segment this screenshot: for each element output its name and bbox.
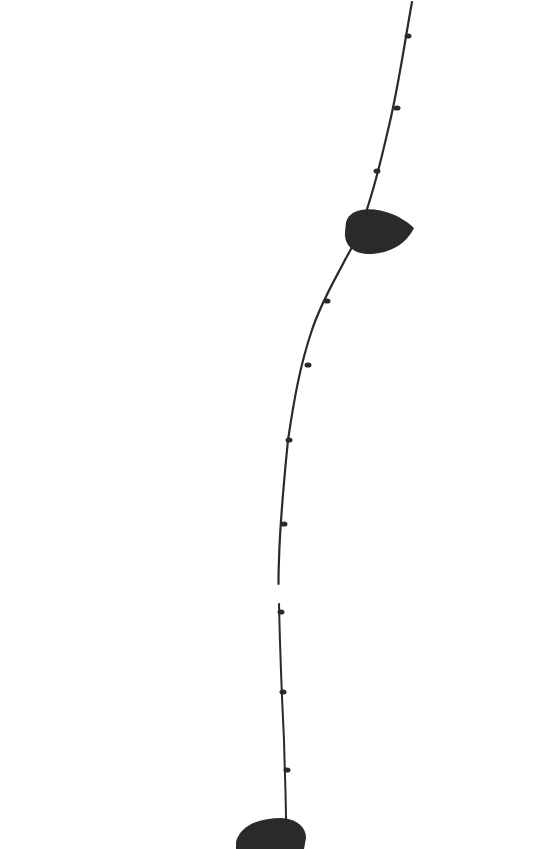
stem-node xyxy=(281,521,288,526)
stem-node xyxy=(278,609,285,614)
stem-node xyxy=(284,767,291,772)
stem-node xyxy=(374,168,381,173)
vine-silhouette xyxy=(0,0,555,849)
stem-node xyxy=(305,362,312,367)
background xyxy=(0,0,555,849)
stem-node xyxy=(405,33,412,38)
stem-node xyxy=(324,298,331,303)
stem-node xyxy=(280,689,287,694)
stem-node xyxy=(394,105,401,110)
stem-node xyxy=(286,437,293,442)
